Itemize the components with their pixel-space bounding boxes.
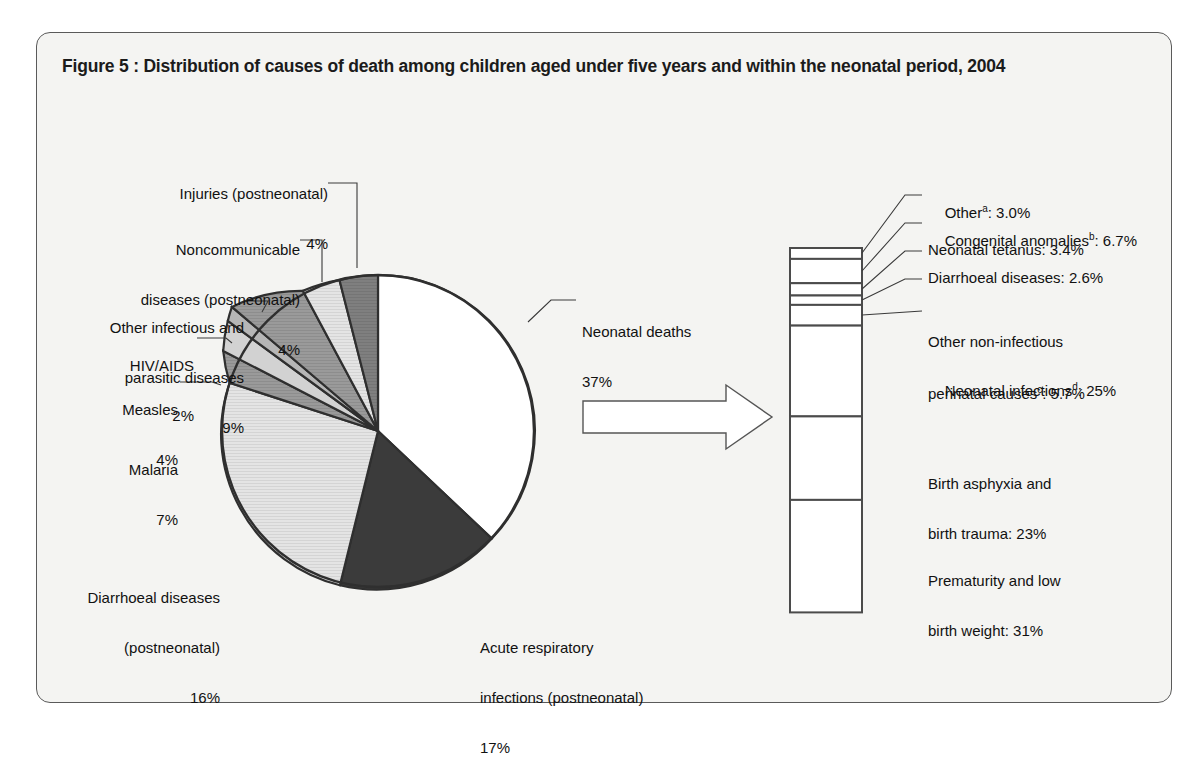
bar-label-prematurity: Prematurity and low birth weight: 31% xyxy=(928,539,1198,673)
pie-label-diarrhoeal: Diarrhoeal diseases (postneonatal) 16% xyxy=(30,556,220,741)
pie-label-measles-line1: Measles xyxy=(36,402,178,419)
figure-title: Figure 5 : Distribution of causes of dea… xyxy=(62,54,1062,79)
bar-label-diarrhoeal-diseases: Diarrhoeal diseases: 2.6% xyxy=(928,270,1198,287)
bar-label-prematurity-line1: Prematurity and low xyxy=(928,573,1198,590)
pie-label-neonatal-deaths-value: 37% xyxy=(582,374,802,391)
pie-label-injuries-line1: Injuries (postneonatal) xyxy=(60,186,328,203)
pie-label-noncommunicable-line1: Noncommunicable xyxy=(40,242,300,259)
pie-label-diarrhoeal-value: 16% xyxy=(30,690,220,707)
bar-label-neonatal-infections-name: Neonatal infections xyxy=(945,382,1073,399)
pie-label-acute-respiratory-value: 17% xyxy=(480,740,740,757)
pie-label-malaria-value: 7% xyxy=(36,512,178,529)
pie-label-acute-respiratory-line2: infections (postneonatal) xyxy=(480,690,740,707)
pie-label-malaria-line1: Malaria xyxy=(36,462,178,479)
pie-label-diarrhoeal-line1: Diarrhoeal diseases xyxy=(30,590,220,607)
pie-label-acute-respiratory-line1: Acute respiratory xyxy=(480,640,740,657)
pie-label-neonatal-deaths-line1: Neonatal deaths xyxy=(582,324,802,341)
pie-label-neonatal-deaths: Neonatal deaths 37% xyxy=(582,290,802,424)
pie-label-diarrhoeal-line2: (postneonatal) xyxy=(30,640,220,657)
bar-label-neonatal-tetanus: Neonatal tetanus: 3.4% xyxy=(928,242,1198,259)
bar-label-other-non-infectious-line1: Other non-infectious xyxy=(928,334,1198,351)
bar-label-neonatal-infections: Neonatal infectionsd: 25% xyxy=(928,364,1198,416)
pie-label-acute-respiratory: Acute respiratory infections (postneonat… xyxy=(480,606,740,757)
bar-label-prematurity-line2: birth weight: 31% xyxy=(928,623,1198,640)
bar-label-neonatal-infections-value: : 25% xyxy=(1078,382,1116,399)
bar-label-birth-asphyxia-line1: Birth asphyxia and xyxy=(928,476,1198,493)
pie-label-malaria: Malaria 7% xyxy=(36,428,178,562)
